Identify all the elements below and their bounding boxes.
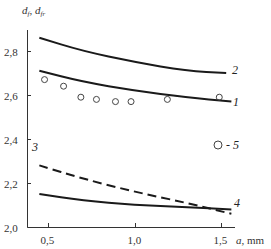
y-tick-label: 2,8 — [4, 46, 18, 58]
y-tick-label: 2,0 — [4, 222, 18, 234]
curve-4 — [39, 194, 231, 209]
curve-label-3: 3 — [31, 140, 38, 154]
legend: - 5 — [214, 138, 239, 152]
data-point-circle — [78, 94, 84, 100]
data-point-circle — [112, 99, 118, 105]
legend-circle-marker — [214, 141, 222, 149]
x-tick-label: 1,0 — [128, 234, 142, 246]
x-tick-label: 1,5 — [214, 234, 228, 246]
y-tick-label: 2,6 — [4, 90, 18, 102]
y-tick-label: 2,4 — [4, 134, 18, 146]
data-point-circle — [42, 77, 48, 83]
x-tick-label: 0,5 — [41, 234, 55, 246]
curve-1 — [39, 71, 231, 102]
curve-label-1: 1 — [233, 95, 239, 109]
data-point-circle — [128, 99, 134, 105]
legend-label: - 5 — [226, 138, 239, 152]
curve-2 — [39, 38, 226, 73]
data-point-circle — [216, 94, 222, 100]
y-tick-label: 2,2 — [4, 178, 18, 190]
y-axis-title: df, dfr — [22, 4, 45, 18]
data-point-circle — [61, 83, 67, 89]
chart: 2,02,22,42,62,8 0,51,01,5 1234 df, dfr a… — [0, 0, 271, 249]
curve-label-2: 2 — [232, 63, 238, 77]
x-axis-title: a, mm — [236, 234, 265, 246]
curve-label-4: 4 — [234, 196, 240, 210]
curve-labels: 1234 — [31, 63, 240, 210]
data-point-circle — [93, 96, 99, 102]
series — [39, 38, 231, 214]
data-point-circle — [164, 96, 170, 102]
curve-3 — [39, 165, 231, 213]
x-ticks: 0,51,01,5 — [41, 223, 228, 246]
y-ticks: 2,02,22,42,62,8 — [4, 46, 31, 234]
